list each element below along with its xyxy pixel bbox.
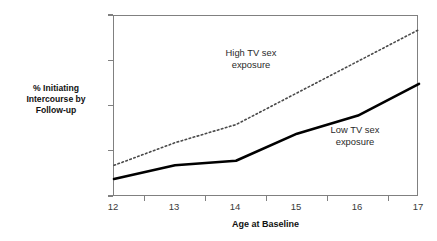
series-lines [114,16,419,197]
x-tick-mark [144,196,145,201]
x-tick-label: 16 [337,201,377,212]
y-tick-mark [108,14,113,15]
y-axis-title-line-1: % Initiating [6,83,106,94]
x-tick-label: 15 [276,201,316,212]
x-tick-mark [205,196,206,201]
x-tick-mark [388,196,389,201]
y-tick-mark [108,60,113,61]
annotation-high-line-1: High TV sex [197,47,305,59]
annotation-high-tv-sex-exposure: High TV sex exposure [197,47,305,71]
chart-figure: % Initiating Intercourse by Follow-up 0%… [0,0,437,241]
x-tick-mark [327,196,328,201]
y-axis-title-line-3: Follow-up [6,105,106,116]
x-tick-label: 14 [215,201,255,212]
x-axis-title: Age at Baseline [113,219,418,229]
x-tick-mark [266,196,267,201]
y-tick-mark [108,195,113,196]
annotation-high-line-2: exposure [197,59,305,71]
x-tick-label: 13 [154,201,194,212]
plot-area [113,15,418,196]
y-tick-mark [108,150,113,151]
y-axis-title-line-2: Intercourse by [6,94,106,105]
x-tick-label: 17 [398,201,437,212]
y-axis-title: % Initiating Intercourse by Follow-up [6,83,106,117]
annotation-low-line-1: Low TV sex [303,124,407,136]
annotation-low-line-2: exposure [303,136,407,148]
annotation-low-tv-sex-exposure: Low TV sex exposure [303,124,407,148]
y-tick-mark [108,105,113,106]
x-tick-label: 12 [93,201,133,212]
